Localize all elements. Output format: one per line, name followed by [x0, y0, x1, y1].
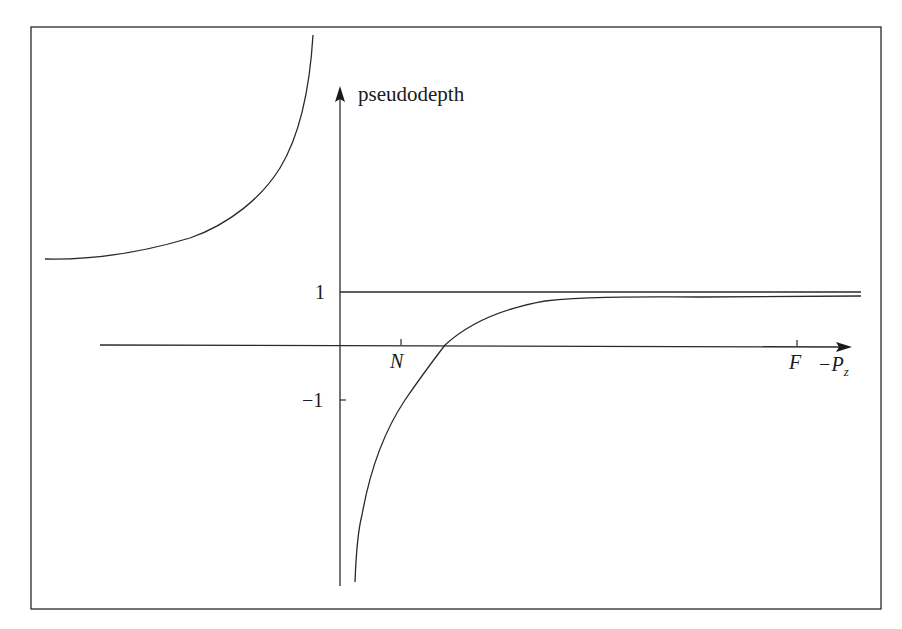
x-axis — [100, 345, 846, 347]
x-axis-label: −Pz — [818, 353, 849, 379]
curve-right-branch — [355, 296, 861, 582]
tick-label-minus-one: −1 — [302, 389, 323, 411]
pseudodepth-diagram: pseudodepth 1 −1 N F −Pz — [0, 0, 902, 629]
tick-label-one: 1 — [315, 281, 325, 303]
x-axis-label-main: −P — [818, 353, 844, 375]
x-axis-label-subscript: z — [843, 364, 849, 379]
y-axis-label: pseudodepth — [358, 82, 465, 106]
tick-label-f: F — [788, 351, 802, 373]
figure-frame — [31, 27, 881, 609]
curve-left-branch — [45, 35, 313, 259]
tick-label-n: N — [389, 350, 405, 372]
